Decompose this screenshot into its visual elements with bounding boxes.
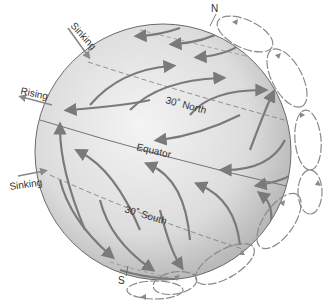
cell-4 bbox=[298, 170, 322, 214]
north-pole-line bbox=[210, 14, 216, 26]
label-north-pole: N bbox=[211, 3, 218, 14]
label-rising: Rising bbox=[20, 85, 49, 102]
circulation-diagram: Sinking Rising Sinking N S 30˚ North Equ… bbox=[0, 0, 330, 301]
cell-3 bbox=[292, 109, 323, 171]
label-sinking-bottom: Sinking bbox=[9, 177, 43, 192]
label-south-pole: S bbox=[118, 275, 125, 286]
